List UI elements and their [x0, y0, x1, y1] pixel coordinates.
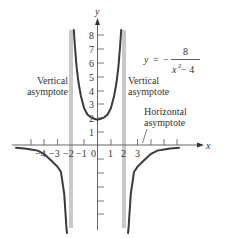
- svg-text:6: 6: [89, 58, 94, 69]
- svg-text:Horizontal: Horizontal: [144, 106, 187, 117]
- svg-text:−1: −1: [76, 148, 87, 159]
- svg-text:3: 3: [135, 148, 140, 159]
- annotation-right-vertical-asymptote: Vertical asymptote: [128, 75, 170, 97]
- svg-text:asymptote: asymptote: [128, 86, 170, 97]
- svg-text:x: x: [171, 64, 177, 75]
- svg-text:1: 1: [89, 127, 94, 138]
- y-axis-label: y: [94, 6, 100, 17]
- svg-text:−2: −2: [63, 148, 74, 159]
- svg-text:Vertical: Vertical: [37, 75, 68, 86]
- annotation-left-vertical-asymptote: Vertical asymptote: [27, 75, 69, 97]
- vertical-asymptote-left: [70, 30, 72, 228]
- x-tick-labels: −4 −3 −2 −1 0 1 2 3: [35, 148, 140, 159]
- rational-function-graph: y x 1 2 3 4 5 6 7 8 −4 −3 −2 −1 0 1 2 3 …: [0, 0, 227, 238]
- x-axis-label: x: [205, 140, 211, 151]
- svg-text:8: 8: [183, 46, 188, 57]
- svg-text:asymptote: asymptote: [144, 117, 186, 128]
- svg-text:1: 1: [108, 148, 113, 159]
- equation: y = − 8 x 2 − 4: [143, 46, 200, 75]
- x-axis: [12, 139, 204, 148]
- svg-text:−3: −3: [49, 148, 60, 159]
- curve-right-branch: [128, 148, 179, 233]
- y-tick-labels: 1 2 3 4 5 6 7 8: [89, 30, 94, 138]
- svg-text:3: 3: [89, 99, 94, 110]
- svg-text:4: 4: [89, 86, 94, 97]
- svg-text:5: 5: [89, 72, 94, 83]
- svg-text:8: 8: [89, 30, 94, 41]
- annotation-horizontal-asymptote: Horizontal asymptote: [143, 106, 187, 143]
- svg-text:2: 2: [121, 148, 126, 159]
- svg-text:=: =: [153, 54, 159, 65]
- svg-text:0: 0: [91, 148, 96, 159]
- vertical-asymptote-right: [123, 30, 125, 228]
- svg-text:− 4: − 4: [181, 64, 194, 75]
- y-axis: [95, 18, 104, 230]
- svg-text:−: −: [163, 54, 169, 65]
- svg-text:7: 7: [89, 44, 94, 55]
- svg-text:Vertical: Vertical: [128, 75, 159, 86]
- svg-text:y: y: [143, 54, 149, 65]
- svg-text:asymptote: asymptote: [27, 86, 69, 97]
- curve-left-branch: [16, 148, 67, 233]
